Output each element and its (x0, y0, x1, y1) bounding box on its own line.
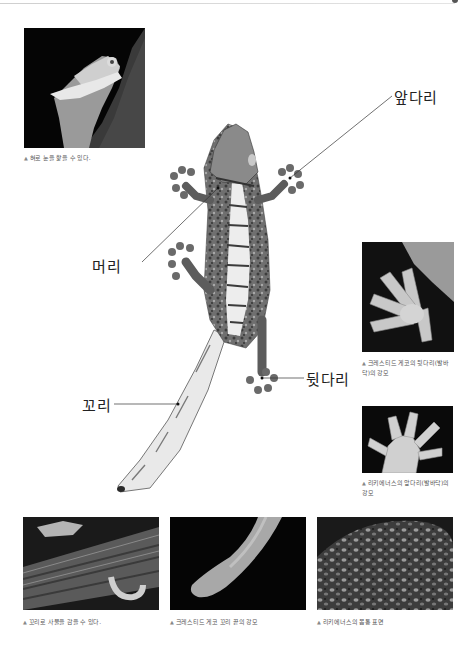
triangle-up-icon: ▲ (317, 619, 321, 625)
caption-hind-foot: ▲크레스티드 게코의 뒷다리(발바닥)의 강모 (362, 358, 456, 377)
photo-tongue-eye (24, 28, 145, 148)
caption-front-foot: ▲리키에너스의 앞다리(발바닥)의 강모 (362, 478, 456, 497)
photo-hind-foot (362, 242, 454, 352)
caption-body-surface: ▲리키에너스의 몸통 표면 (317, 617, 457, 627)
leader-front-leg (290, 96, 392, 178)
front-foot-image (362, 406, 453, 473)
photo-tail-grip (23, 517, 159, 610)
tail-grip-image (23, 517, 159, 610)
triangle-up-icon: ▲ (362, 480, 366, 486)
triangle-up-icon: ▲ (362, 360, 366, 366)
tail-tip-image (170, 517, 306, 610)
photo-front-foot (362, 406, 453, 473)
corner-mark (452, 0, 458, 3)
label-tail: 꼬리 (82, 394, 111, 415)
caption-text: 리키에너스의 몸통 표면 (323, 618, 384, 625)
triangle-up-icon: ▲ (24, 155, 28, 161)
caption-text: 크레스티드 게코 꼬리 끝의 강모 (176, 618, 258, 625)
photo-body-surface (317, 517, 453, 610)
caption-tail-grip: ▲꼬리로 사물을 감을 수 있다. (23, 617, 163, 627)
caption-tongue-eye: ▲혀로 눈을 핥을 수 있다. (24, 153, 164, 163)
top-rule (0, 3, 455, 4)
photo-tail-tip (170, 517, 306, 610)
gecko-licking-eye-image (24, 28, 145, 148)
label-hind-leg: 뒷다리 (306, 368, 350, 389)
caption-text: 크레스티드 게코의 뒷다리(발바닥)의 강모 (362, 359, 449, 376)
caption-text: 혀로 눈을 핥을 수 있다. (30, 154, 91, 161)
leader-head (142, 188, 218, 262)
caption-text: 꼬리로 사물을 감을 수 있다. (29, 618, 101, 625)
label-front-leg: 앞다리 (394, 86, 438, 107)
caption-text: 리키에너스의 앞다리(발바닥)의 강모 (362, 479, 449, 496)
triangle-up-icon: ▲ (23, 619, 27, 625)
body-surface-image (317, 517, 453, 610)
caption-tail-tip: ▲크레스티드 게코 꼬리 끝의 강모 (170, 617, 310, 627)
hind-foot-image (362, 242, 454, 352)
label-head: 머리 (92, 255, 121, 276)
triangle-up-icon: ▲ (170, 619, 174, 625)
